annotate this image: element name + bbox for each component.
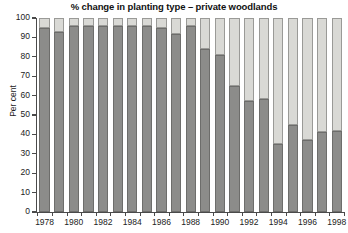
bar-1978 xyxy=(39,18,49,212)
chart-title: % change in planting type – private wood… xyxy=(0,1,348,12)
x-tick-mark xyxy=(213,212,214,216)
bar-1989 xyxy=(200,18,210,212)
bar-segment-upper xyxy=(332,18,342,131)
bar-segment-upper xyxy=(186,18,196,26)
bar-series-layer xyxy=(37,18,344,212)
bar-segment-upper xyxy=(317,18,327,132)
y-tick-label: 60 xyxy=(21,90,30,100)
bar-1985 xyxy=(142,18,152,212)
x-tick-label: 1984 xyxy=(123,217,142,227)
x-tick-label: 1996 xyxy=(298,217,317,227)
bar-1990 xyxy=(215,18,225,212)
x-tick-mark xyxy=(52,212,53,216)
bar-segment-lower xyxy=(244,101,254,212)
x-tick-mark xyxy=(227,212,228,216)
x-tick-mark xyxy=(256,212,257,216)
x-tick-label: 1994 xyxy=(269,217,288,227)
bar-segment-lower xyxy=(200,49,210,212)
x-tick-mark xyxy=(37,212,38,216)
bar-segment-upper xyxy=(259,18,269,99)
bar-segment-upper xyxy=(83,18,93,26)
x-tick-label: 1988 xyxy=(181,217,200,227)
y-tick-label: 20 xyxy=(21,167,30,177)
bar-segment-lower xyxy=(39,28,49,212)
y-tick-label: 80 xyxy=(21,51,30,61)
x-tick-mark xyxy=(110,212,111,216)
x-tick-mark xyxy=(81,212,82,216)
x-tick-label: 1986 xyxy=(152,217,171,227)
bar-1991 xyxy=(229,18,239,212)
bar-segment-lower xyxy=(273,144,283,212)
x-tick-label: 1992 xyxy=(240,217,259,227)
bar-1994 xyxy=(273,18,283,212)
bar-segment-lower xyxy=(186,26,196,212)
x-tick-mark xyxy=(329,212,330,216)
bar-1984 xyxy=(127,18,137,212)
bar-1995 xyxy=(288,18,298,212)
x-tick-mark xyxy=(198,212,199,216)
x-tick-mark xyxy=(96,212,97,216)
bar-segment-lower xyxy=(98,26,108,212)
bar-1992 xyxy=(244,18,254,212)
bar-segment-upper xyxy=(244,18,254,101)
bar-1988 xyxy=(186,18,196,212)
bar-segment-lower xyxy=(317,132,327,212)
bar-segment-lower xyxy=(229,86,239,212)
y-tick-label: 40 xyxy=(21,128,30,138)
bar-segment-upper xyxy=(171,18,181,34)
bar-segment-upper xyxy=(288,18,298,125)
bar-segment-upper xyxy=(69,18,79,26)
bar-1982 xyxy=(98,18,108,212)
bar-segment-upper xyxy=(302,18,312,140)
x-tick-mark xyxy=(315,212,316,216)
x-tick-mark xyxy=(169,212,170,216)
x-tick-label: 1980 xyxy=(64,217,83,227)
bar-segment-lower xyxy=(215,55,225,212)
x-tick-mark xyxy=(140,212,141,216)
y-tick-label: 10 xyxy=(21,187,30,197)
bar-segment-upper xyxy=(98,18,108,26)
bar-segment-lower xyxy=(171,34,181,212)
x-tick-mark xyxy=(286,212,287,216)
x-tick-mark xyxy=(67,212,68,216)
bar-1981 xyxy=(83,18,93,212)
x-tick-mark xyxy=(125,212,126,216)
bar-segment-lower xyxy=(302,140,312,212)
x-tick-label: 1990 xyxy=(210,217,229,227)
bar-segment-lower xyxy=(332,131,342,212)
bar-1987 xyxy=(171,18,181,212)
y-tick-label: 70 xyxy=(21,70,30,80)
bar-segment-upper xyxy=(127,18,137,26)
bar-1983 xyxy=(113,18,123,212)
x-tick-label: 1978 xyxy=(35,217,54,227)
bar-segment-lower xyxy=(69,26,79,212)
bar-segment-lower xyxy=(54,32,64,212)
x-tick-mark xyxy=(154,212,155,216)
bar-segment-lower xyxy=(288,125,298,212)
bar-1980 xyxy=(69,18,79,212)
bar-segment-lower xyxy=(142,26,152,212)
x-tick-mark xyxy=(344,212,345,216)
bar-1998 xyxy=(332,18,342,212)
y-tick-label: 90 xyxy=(21,31,30,41)
bar-segment-upper xyxy=(113,18,123,26)
x-tick-mark xyxy=(271,212,272,216)
bar-segment-lower xyxy=(156,28,166,212)
chart-container: % change in planting type – private wood… xyxy=(0,0,348,233)
bar-segment-upper xyxy=(229,18,239,86)
bar-1986 xyxy=(156,18,166,212)
x-tick-label: 1998 xyxy=(327,217,346,227)
bar-segment-lower xyxy=(83,26,93,212)
bar-1997 xyxy=(317,18,327,212)
bar-1993 xyxy=(259,18,269,212)
x-axis-labels: 1978198019821984198619881990199219941996… xyxy=(0,217,348,231)
y-axis: 1009080706050403020100 xyxy=(0,18,36,212)
bar-segment-lower xyxy=(127,26,137,212)
bar-segment-upper xyxy=(39,18,49,28)
y-tick-label: 50 xyxy=(21,109,30,119)
y-tick-label: 30 xyxy=(21,148,30,158)
bar-segment-upper xyxy=(156,18,166,28)
bar-segment-upper xyxy=(200,18,210,49)
bar-segment-lower xyxy=(113,26,123,212)
y-tick-label: 100 xyxy=(16,12,30,22)
